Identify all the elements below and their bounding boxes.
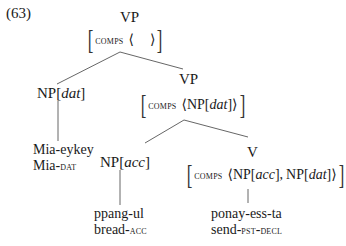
list-close: ⟩	[150, 32, 155, 48]
gloss-tag: dat	[60, 159, 76, 173]
np-cat: NP[	[187, 97, 210, 113]
gloss-send-pst-decl: send-pst-decl	[211, 222, 282, 238]
gloss-mia-dat: Mia-dat	[33, 158, 76, 174]
gloss-bread-acc: bread-acc	[94, 222, 147, 238]
branch-vp-v	[184, 120, 248, 137]
root-vp-label: VP	[120, 9, 139, 25]
gloss-stem: bread-	[94, 222, 130, 237]
np-close: ]	[145, 154, 150, 170]
comps-attr: comps	[194, 167, 222, 183]
gloss-stem: Mia-	[33, 158, 60, 173]
right-bracket: ]	[239, 92, 245, 118]
comps-attr: comps	[95, 32, 123, 48]
branch-root-npdat	[57, 52, 120, 84]
np-cat: NP[	[286, 167, 309, 183]
vp2-comps-avm: [ comps ⟨ NP[dat] ⟩ ]	[139, 92, 247, 118]
right-bracket: ]	[339, 162, 345, 188]
np-dat-node: NP[dat]	[37, 85, 85, 101]
np-acc-node: NP[acc]	[100, 154, 150, 170]
gloss-tag-decl: decl	[260, 223, 282, 237]
list-open: ⟨	[128, 32, 133, 48]
np-cat: NP[	[233, 167, 256, 183]
np-cat: NP[	[37, 85, 61, 101]
np-close: ],	[275, 167, 283, 183]
word-ponay-ess-ta: ponay-ess-ta	[211, 206, 282, 222]
v-comps-avm: [ comps ⟨ NP[acc], NP[dat] ⟩ ]	[185, 162, 346, 188]
right-bracket: ]	[157, 27, 163, 53]
example-number: (63)	[6, 5, 31, 21]
left-bracket: [	[187, 162, 193, 188]
vp2-label: VP	[179, 71, 198, 87]
case-dat: dat	[309, 167, 327, 183]
branch-root-vp	[120, 52, 183, 69]
case-dat: dat	[209, 97, 227, 113]
gloss-tag-pst: pst	[241, 223, 255, 237]
list-close: ⟩	[331, 167, 336, 183]
v-label: V	[247, 144, 258, 160]
comps-attr: comps	[148, 97, 176, 113]
case-acc: acc	[255, 167, 274, 183]
branch-vp-npacc	[145, 120, 184, 143]
left-bracket: [	[141, 92, 147, 118]
gloss-tag: acc	[130, 223, 147, 237]
root-comps-avm: [ comps ⟨ ⟩ ]	[86, 27, 165, 53]
word-ppang-ul: ppang-ul	[94, 206, 144, 222]
gloss-stem: send-	[211, 222, 241, 237]
case-acc: acc	[124, 154, 145, 170]
np-close: ]	[80, 85, 85, 101]
list-close: ⟩	[232, 97, 237, 113]
case-dat: dat	[61, 85, 80, 101]
np-cat: NP[	[100, 154, 124, 170]
left-bracket: [	[88, 27, 94, 53]
word-mia-eykey: Mia-eykey	[33, 142, 94, 158]
